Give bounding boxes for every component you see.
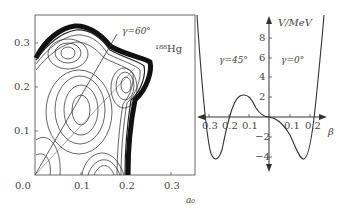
gamma-0-label: γ=0° [281, 56, 304, 65]
x-tick-0.1: 0.1 [74, 181, 90, 191]
y-tick-0.2: 0.2 [14, 82, 30, 92]
beta-axis-label: β [328, 127, 334, 137]
beta-tick-left-0.1: 0.1 [242, 121, 258, 131]
v-tick-neg4: −4 [255, 152, 270, 162]
beta-tick-left-0.2: 0.2 [222, 121, 238, 131]
beta-tick-right-0.1: 0.1 [284, 121, 300, 131]
v-tick-4: 4 [259, 72, 265, 82]
nucleus-label: ¹⁸⁸Hg [155, 44, 182, 54]
beta-tick-left-0.3: 0.3 [202, 121, 218, 131]
v-tick-8: 8 [259, 33, 265, 43]
curve-gamma-0 [269, 15, 324, 159]
contour-lines [36, 26, 150, 175]
beta-tick-right-0.2: 0.2 [305, 121, 321, 131]
y-tick-0.3: 0.3 [14, 38, 30, 48]
x-tick-0.2: 0.2 [119, 181, 135, 191]
v-axis-label: V/MeV [278, 18, 312, 28]
v-tick-neg2: −2 [255, 132, 270, 142]
x-axis-label-a0: a₀ [186, 196, 195, 205]
x-tick-0.0: 0.0 [15, 181, 31, 191]
contour-frame [35, 15, 195, 175]
v-tick-2: 2 [259, 92, 265, 102]
v-tick-6: 6 [259, 53, 265, 63]
gamma-45-label: γ=45° [219, 56, 248, 65]
gamma-60-label: γ=60° [122, 27, 151, 36]
x-tick-0.3: 0.3 [164, 181, 180, 191]
y-tick-0.1: 0.1 [14, 126, 30, 136]
